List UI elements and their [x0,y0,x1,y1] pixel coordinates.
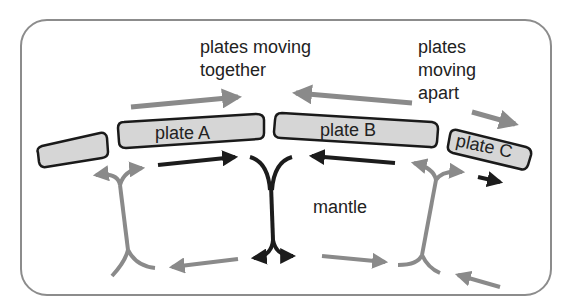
arrow-plate-c-right [478,177,500,182]
plate-c: plate C [448,130,531,170]
arrow-bottom-left [172,259,238,267]
arrow-right-up-right [436,172,462,180]
convection-center-left-curve [250,157,270,190]
convection-right-bottom-left [398,255,422,265]
arrow-right-up-left [414,163,436,180]
label-plates-moving-apart-2: moving [418,60,476,80]
arrow-bottom-right-left [458,275,500,287]
convection-left-stem [120,185,128,250]
arrow-plate-a-right [158,157,235,165]
convection-left-bottom-left [112,250,128,276]
arrow-center-down-right [273,240,293,256]
convection-center-right-curve [272,157,292,190]
arrow-together-right [131,97,238,107]
label-plates-moving-together-1: plates moving [200,37,311,57]
plate-tectonics-diagram: plates moving together plates moving apa… [0,0,561,305]
arrow-apart-left [296,93,412,103]
label-plates-moving-together-2: together [200,60,266,80]
arrow-left-up-right [120,168,142,185]
label-plates-moving-apart-3: apart [418,83,459,103]
plate-a: plate A [118,114,264,148]
plate-unlabeled [38,133,109,167]
plate-b: plate B [274,113,438,147]
arrow-plate-b-left [312,156,395,163]
convection-center-stem [271,185,273,240]
arrow-apart-right [472,112,515,124]
label-mantle: mantle [313,197,367,217]
plate-b-label: plate B [320,120,376,140]
arrow-bottom-middle-right [322,256,385,262]
convection-right-stem [422,180,436,255]
arrow-left-up-left [96,174,120,185]
plate-a-label: plate A [155,123,210,143]
convection-right-bottom-right [422,255,440,273]
convection-left-bottom-right [128,250,155,268]
label-plates-moving-apart-1: plates [418,37,466,57]
arrow-center-down-left [254,240,273,258]
